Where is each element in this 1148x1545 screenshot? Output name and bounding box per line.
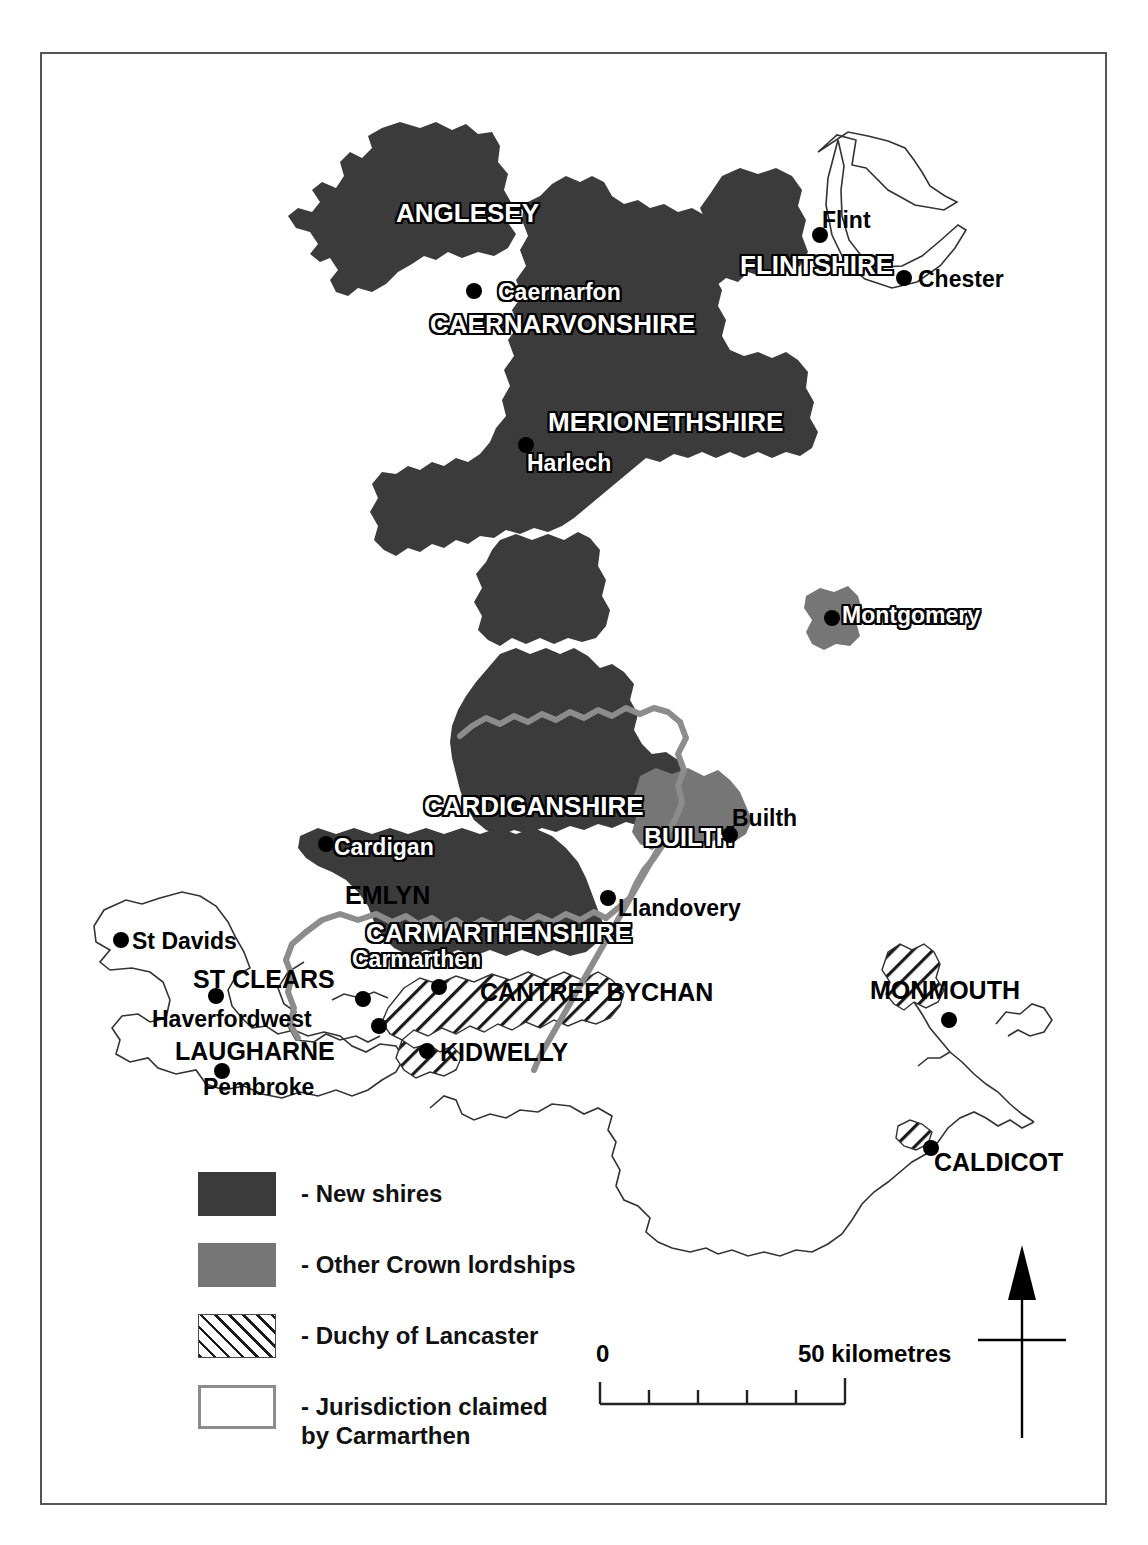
town-dot-caernarfon [466,283,482,299]
region-label-monmouth: MONMOUTH [870,978,1020,1003]
region-label-anglesey: ANGLESEY [396,200,539,226]
legend-label-jurisdiction-line2: by Carmarthen [301,1421,548,1450]
town-dot-st-clears [355,991,371,1007]
legend-item-duchy-of-lancaster: - Duchy of Lancaster [198,1314,576,1358]
town-label-carmarthen: Carmarthen [352,948,481,971]
town-dot-cardigan [318,836,334,852]
town-label-haverfordwest: Haverfordwest [152,1008,312,1031]
town-dot-caldicot [923,1140,939,1156]
town-dot-laugharne [371,1018,387,1034]
region-label-builth: BUILTH [644,825,734,850]
region-label-laugharne: LAUGHARNE [175,1039,335,1064]
town-dot-montgomery [824,610,840,626]
town-label-llandovery: Llandovery [618,897,741,920]
legend-label-jurisdiction-line1: - Jurisdiction claimed [301,1392,548,1421]
town-dot-st-davids [113,932,129,948]
region-label-flintshire: FLINTSHIRE [740,252,893,278]
legend-item-other-crown-lordships: - Other Crown lordships [198,1243,576,1287]
scale-bar-graphic [600,1378,845,1404]
legend-label-jurisdiction-claimed: - Jurisdiction claimed by Carmarthen [301,1385,548,1451]
region-label-merionethshire: MERIONETHSHIRE [548,409,783,435]
legend-item-jurisdiction-claimed: - Jurisdiction claimed by Carmarthen [198,1385,576,1451]
town-label-flint: Flint [822,209,871,232]
town-label-caernarfon: Caernarfon [498,281,621,304]
north-arrow-graphic [978,1245,1066,1438]
scale-max-label: 50 kilometres [798,1340,951,1368]
region-label-emlyn: EMLYN [345,883,430,908]
scale-bar: 0 50 kilometres [596,1340,896,1370]
town-dot-monmouth [941,1012,957,1028]
legend-item-new-shires: - New shires [198,1172,576,1216]
town-label-builth: Builth [732,807,797,830]
region-label-kidwelly: KIDWELLY [440,1040,568,1065]
legend-swatch-duchy-of-lancaster [198,1314,276,1358]
legend-swatch-other-crown-lordships [198,1243,276,1287]
legend-swatch-new-shires [198,1172,276,1216]
region-label-caernarvonshire: CAERNARVONSHIRE [430,311,695,337]
town-label-harlech: Harlech [527,452,611,475]
town-dot-haverfordwest [208,988,224,1004]
scale-min-label: 0 [596,1340,609,1368]
legend-swatch-jurisdiction-claimed [198,1385,276,1429]
town-dot-carmarthen [431,979,447,995]
town-label-montgomery: Montgomery [842,604,980,627]
legend-label-duchy-of-lancaster: - Duchy of Lancaster [301,1314,538,1350]
legend-label-other-crown-lordships: - Other Crown lordships [301,1243,576,1279]
town-label-st-davids: St Davids [132,930,237,953]
region-label-caldicot: CALDICOT [934,1150,1063,1175]
region-label-cardiganshire: CARDIGANSHIRE [424,793,644,819]
town-label-cardigan: Cardigan [334,836,434,859]
map-legend: - New shires - Other Crown lordships - D… [198,1172,576,1478]
map-page: ANGLESEY CAERNARVONSHIRE FLINTSHIRE MERI… [0,0,1148,1545]
town-dot-chester [896,270,912,286]
town-dot-llandovery [600,890,616,906]
town-dot-kidwelly [419,1043,435,1059]
region-label-carmarthenshire: CARMARTHENSHIRE [366,920,632,946]
legend-label-new-shires: - New shires [301,1172,442,1208]
town-label-chester: Chester [918,268,1004,291]
region-label-cantref-bychan: CANTREF BYCHAN [480,980,713,1005]
town-label-pembroke: Pembroke [203,1076,314,1099]
